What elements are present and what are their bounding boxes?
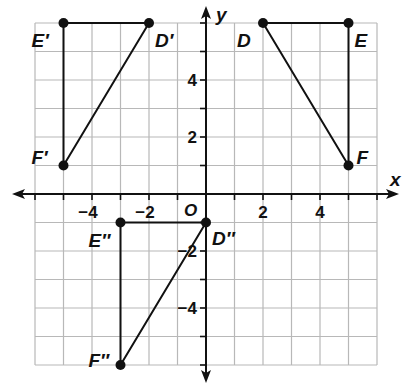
x-tick-label: −4 <box>78 203 98 222</box>
vertex-label: F″ <box>89 350 111 371</box>
vertex-label: F′ <box>32 147 50 168</box>
vertex-point <box>201 218 211 228</box>
vertex-labels: DEFD′E′F′D″E″F″ <box>32 30 370 371</box>
vertex-point <box>59 161 69 171</box>
axes <box>12 6 399 383</box>
vertex-point <box>344 18 354 28</box>
y-tick-label: −4 <box>178 299 198 318</box>
vertex-point <box>144 18 154 28</box>
triangle-original <box>263 23 349 166</box>
y-axis-label: y <box>215 4 228 25</box>
vertex-label: E <box>355 30 369 51</box>
vertex-label: D′ <box>155 30 175 51</box>
y-tick-label: −2 <box>178 242 197 261</box>
vertex-point <box>258 18 268 28</box>
y-tick-label: 2 <box>188 128 197 147</box>
x-tick-label: −2 <box>135 203 154 222</box>
triangle-image-prime <box>64 23 150 166</box>
vertex-point <box>344 161 354 171</box>
vertex-label: F <box>357 147 370 168</box>
origin-label: O <box>184 201 197 220</box>
vertex-label: D <box>237 30 251 51</box>
vertex-point <box>116 218 126 228</box>
vertex-label: E′ <box>32 30 51 51</box>
y-tick-label: 4 <box>188 71 198 90</box>
coordinate-plane: −4−22442−2−4xyO DEFD′E′F′D″E″F″ <box>0 0 405 386</box>
vertex-label: E″ <box>89 230 112 251</box>
triangle-image-double-prime <box>121 223 207 366</box>
vertex-point <box>59 18 69 28</box>
vertex-point <box>116 360 126 370</box>
vertex-label: D″ <box>212 228 236 249</box>
x-axis-label: x <box>389 169 402 190</box>
x-tick-label: 4 <box>315 203 325 222</box>
x-tick-label: 2 <box>258 203 267 222</box>
